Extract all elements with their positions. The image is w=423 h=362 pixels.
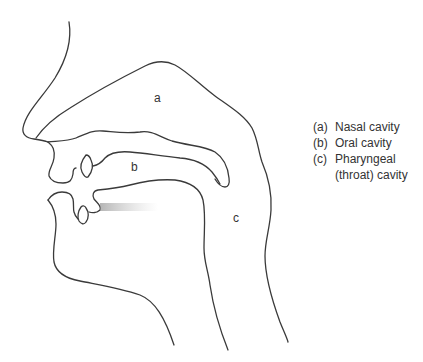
palate-upper-edge	[48, 131, 229, 187]
legend-item-nasal: (a) Nasal cavity	[313, 119, 408, 135]
legend-item-pharyngeal-cont: (throat) cavity	[313, 167, 408, 183]
legend-item-pharyngeal: (c) Pharyngeal	[313, 151, 408, 167]
legend-text: (throat) cavity	[335, 167, 408, 183]
airflow-shading	[100, 203, 158, 211]
legend-text: Pharyngeal	[335, 151, 396, 167]
label-nasal-cavity: a	[154, 92, 161, 104]
chin-neck-outline	[48, 200, 174, 345]
legend-key: (c)	[313, 151, 335, 167]
legend-text: Oral cavity	[335, 135, 392, 151]
lower-lip	[48, 192, 78, 219]
legend-key: (a)	[313, 119, 335, 135]
legend-item-oral: (b) Oral cavity	[313, 135, 408, 151]
lower-tooth	[78, 206, 88, 224]
nose-outline	[23, 22, 70, 142]
label-pharyngeal-cavity: c	[233, 212, 239, 224]
legend: (a) Nasal cavity (b) Oral cavity (c) Pha…	[313, 119, 408, 183]
legend-key	[313, 167, 335, 183]
upper-tooth	[81, 155, 93, 177]
label-oral-cavity: b	[131, 161, 138, 173]
legend-key: (b)	[313, 135, 335, 151]
legend-text: Nasal cavity	[335, 119, 400, 135]
